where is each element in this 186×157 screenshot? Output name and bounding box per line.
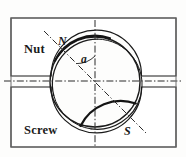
technical-diagram: Nut Screw N S a xyxy=(0,0,186,157)
angle-alpha-label: a xyxy=(81,53,87,65)
screw-outline xyxy=(11,87,176,147)
point-n-label: N xyxy=(57,34,68,48)
screw-body xyxy=(11,87,176,147)
screw-label: Screw xyxy=(24,123,57,137)
nut-label: Nut xyxy=(24,42,45,56)
point-s-label: S xyxy=(124,124,131,138)
diagram-canvas: Nut Screw N S a xyxy=(0,0,186,157)
